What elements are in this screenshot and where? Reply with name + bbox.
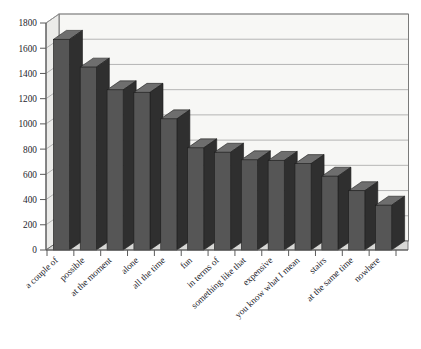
x-axis-tick-labels: a couple ofpossibleat the momentaloneall… [23,255,382,320]
y-tick-label: 1400 [18,69,37,79]
bar [376,196,405,250]
x-tick-label: nowhere [352,255,382,284]
y-tick-label: 1200 [18,94,37,104]
bar [295,155,324,250]
bar [349,182,378,250]
x-tick-label: fun [178,255,194,271]
bar [53,30,82,250]
y-tick-label: 1000 [18,119,37,129]
bar-chart: 020040060080010001200140016001800 a coup… [0,0,421,349]
bar [214,143,243,250]
bar [80,58,109,250]
y-tick-label: 1600 [18,44,37,54]
x-tick-label: a couple of [23,255,60,291]
x-tick-label: at the same time [304,255,355,303]
bar [161,110,190,250]
y-tick-label: 800 [23,145,37,155]
y-axis-tick-labels: 020040060080010001200140016001800 [18,18,37,255]
bar [241,151,270,250]
bar [134,83,163,250]
bar [188,139,217,250]
chart-plot-area: 020040060080010001200140016001800 a coup… [0,0,421,349]
bar [107,81,136,250]
x-tick-label: stairs [307,255,328,276]
y-tick-label: 1800 [18,18,37,28]
y-tick-label: 200 [23,220,37,230]
y-tick-label: 600 [23,170,37,180]
y-axis-ticks [40,23,46,250]
x-axis-ticks [47,250,396,256]
x-tick-label: alone [119,255,140,276]
bar [268,151,297,250]
y-tick-label: 0 [32,245,37,255]
bar [322,167,351,250]
y-tick-label: 400 [23,195,37,205]
